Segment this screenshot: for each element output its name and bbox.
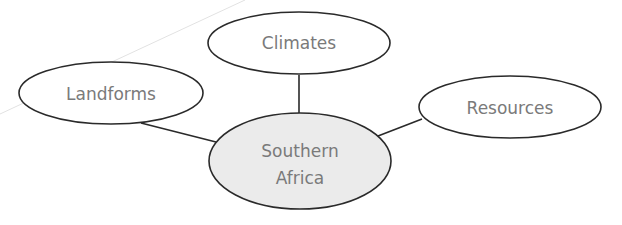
node-center-label-line1: Southern [261, 141, 338, 161]
node-resources-label: Resources [467, 98, 554, 118]
node-landforms-label: Landforms [66, 84, 156, 104]
node-climates: Climates [208, 12, 390, 74]
node-center-label-line2: Africa [276, 168, 325, 188]
node-landforms: Landforms [19, 62, 203, 124]
node-center-ellipse [209, 113, 391, 209]
edge-landforms-center [141, 123, 216, 142]
node-climates-label: Climates [262, 33, 336, 53]
edge-resources-center [378, 119, 422, 136]
concept-web-diagram: Climates Landforms Resources Southern Af… [0, 0, 622, 225]
node-center: Southern Africa [209, 113, 391, 209]
node-resources: Resources [419, 76, 601, 138]
